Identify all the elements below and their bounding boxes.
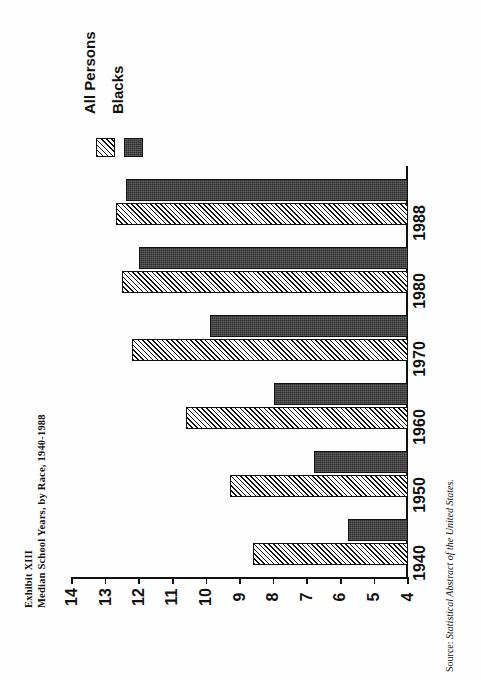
value-tick-label: 8 — [260, 588, 288, 606]
category-label-1970: 1970 — [411, 341, 429, 377]
bar-1980-blacks — [139, 247, 408, 269]
value-tick-label: 9 — [226, 588, 254, 606]
category-label-1950: 1950 — [411, 477, 429, 513]
bar-1950-blacks — [314, 451, 408, 473]
bar-1950-all-persons — [230, 475, 408, 497]
bar-1980-all-persons — [122, 271, 408, 293]
category-label-1960: 1960 — [411, 409, 429, 445]
value-tick — [71, 577, 73, 584]
value-tick — [273, 577, 275, 584]
value-tick — [105, 577, 107, 584]
value-tick — [239, 577, 241, 584]
value-tick — [374, 577, 376, 584]
value-tick-label: 4 — [394, 588, 422, 606]
bar-chart-plot: 1413121110987654 19401950196019701980198… — [0, 0, 481, 680]
value-tick — [306, 577, 308, 584]
bar-1988-blacks — [126, 179, 408, 201]
category-label-1988: 1988 — [411, 205, 429, 241]
value-tick-label: 13 — [92, 588, 120, 606]
category-label-1940: 1940 — [411, 545, 429, 581]
bar-1970-all-persons — [132, 339, 408, 361]
value-tick-label: 12 — [125, 588, 153, 606]
value-tick-label: 6 — [327, 588, 355, 606]
bar-1960-all-persons — [186, 407, 408, 429]
bar-1940-all-persons — [253, 543, 408, 565]
category-label-1980: 1980 — [411, 273, 429, 309]
value-tick-label: 11 — [159, 588, 187, 606]
value-tick-label: 7 — [293, 588, 321, 606]
value-tick — [340, 577, 342, 584]
value-tick-label: 14 — [58, 588, 86, 606]
value-tick — [407, 577, 409, 584]
value-tick-label: 5 — [360, 588, 388, 606]
bar-1970-blacks — [210, 315, 408, 337]
value-tick — [138, 577, 140, 584]
value-tick — [172, 577, 174, 584]
bar-1988-all-persons — [116, 203, 408, 225]
bar-1960-blacks — [274, 383, 408, 405]
value-tick-label: 10 — [192, 588, 220, 606]
value-tick — [206, 577, 208, 584]
bar-1940-blacks — [348, 519, 408, 541]
chart-page: Exhibit XIII Median School Years, by Rac… — [0, 0, 481, 680]
category-axis-line — [406, 166, 408, 578]
